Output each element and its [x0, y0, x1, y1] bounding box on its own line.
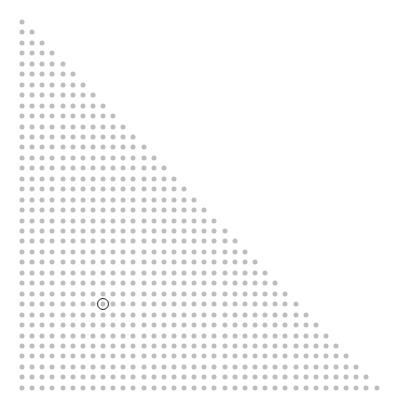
- grid-dot[interactable]: [40, 40, 45, 45]
- grid-dot[interactable]: [50, 72, 55, 77]
- grid-dot[interactable]: [293, 343, 298, 348]
- grid-dot[interactable]: [80, 197, 85, 202]
- grid-dot[interactable]: [40, 291, 45, 296]
- grid-dot[interactable]: [20, 145, 25, 150]
- grid-dot[interactable]: [354, 375, 359, 380]
- grid-dot[interactable]: [182, 302, 187, 307]
- grid-dot[interactable]: [131, 343, 136, 348]
- grid-dot[interactable]: [141, 302, 146, 307]
- grid-dot[interactable]: [222, 260, 227, 265]
- grid-dot[interactable]: [293, 354, 298, 359]
- grid-dot[interactable]: [101, 176, 106, 181]
- grid-dot[interactable]: [182, 312, 187, 317]
- grid-dot[interactable]: [161, 333, 166, 338]
- grid-dot[interactable]: [111, 187, 116, 192]
- grid-dot[interactable]: [161, 343, 166, 348]
- grid-dot[interactable]: [20, 364, 25, 369]
- grid-dot[interactable]: [151, 333, 156, 338]
- grid-dot[interactable]: [202, 291, 207, 296]
- grid-dot[interactable]: [232, 239, 237, 244]
- grid-dot[interactable]: [273, 354, 278, 359]
- grid-dot[interactable]: [192, 302, 197, 307]
- grid-dot[interactable]: [101, 375, 106, 380]
- grid-dot[interactable]: [131, 260, 136, 265]
- grid-dot[interactable]: [70, 145, 75, 150]
- grid-dot[interactable]: [222, 291, 227, 296]
- grid-dot[interactable]: [171, 312, 176, 317]
- grid-dot[interactable]: [273, 375, 278, 380]
- grid-dot[interactable]: [182, 385, 187, 390]
- grid-dot[interactable]: [313, 354, 318, 359]
- grid-dot[interactable]: [121, 333, 126, 338]
- grid-dot[interactable]: [40, 218, 45, 223]
- grid-dot[interactable]: [60, 124, 65, 129]
- grid-dot[interactable]: [60, 103, 65, 108]
- grid-dot[interactable]: [313, 343, 318, 348]
- grid-dot[interactable]: [80, 134, 85, 139]
- grid-dot[interactable]: [30, 208, 35, 213]
- grid-dot[interactable]: [161, 291, 166, 296]
- grid-dot[interactable]: [80, 124, 85, 129]
- grid-dot[interactable]: [354, 364, 359, 369]
- grid-dot[interactable]: [111, 208, 116, 213]
- grid-dot[interactable]: [70, 229, 75, 234]
- grid-dot[interactable]: [80, 93, 85, 98]
- grid-dot[interactable]: [50, 354, 55, 359]
- grid-dot[interactable]: [212, 281, 217, 286]
- grid-dot[interactable]: [252, 281, 257, 286]
- grid-dot[interactable]: [131, 302, 136, 307]
- grid-dot[interactable]: [101, 239, 106, 244]
- grid-dot[interactable]: [171, 176, 176, 181]
- grid-dot[interactable]: [20, 281, 25, 286]
- grid-dot[interactable]: [80, 249, 85, 254]
- grid-dot[interactable]: [111, 302, 116, 307]
- grid-dot[interactable]: [30, 72, 35, 77]
- grid-dot[interactable]: [161, 302, 166, 307]
- grid-dot[interactable]: [111, 364, 116, 369]
- grid-dot[interactable]: [171, 302, 176, 307]
- grid-dot[interactable]: [111, 134, 116, 139]
- grid-dot[interactable]: [20, 249, 25, 254]
- grid-dot[interactable]: [20, 260, 25, 265]
- grid-dot[interactable]: [20, 323, 25, 328]
- grid-dot[interactable]: [161, 239, 166, 244]
- grid-dot[interactable]: [141, 364, 146, 369]
- grid-dot[interactable]: [111, 260, 116, 265]
- grid-dot[interactable]: [80, 260, 85, 265]
- grid-dot[interactable]: [40, 270, 45, 275]
- grid-dot[interactable]: [121, 312, 126, 317]
- grid-dot[interactable]: [40, 364, 45, 369]
- grid-dot[interactable]: [303, 343, 308, 348]
- grid-dot[interactable]: [202, 333, 207, 338]
- grid-dot[interactable]: [50, 343, 55, 348]
- grid-dot[interactable]: [70, 103, 75, 108]
- grid-dot[interactable]: [263, 385, 268, 390]
- grid-dot[interactable]: [40, 124, 45, 129]
- grid-dot[interactable]: [252, 375, 257, 380]
- grid-dot[interactable]: [30, 364, 35, 369]
- grid-dot[interactable]: [30, 114, 35, 119]
- grid-dot[interactable]: [80, 114, 85, 119]
- grid-dot[interactable]: [323, 333, 328, 338]
- grid-dot[interactable]: [30, 166, 35, 171]
- grid-dot[interactable]: [131, 375, 136, 380]
- grid-dot[interactable]: [131, 145, 136, 150]
- grid-dot[interactable]: [252, 333, 257, 338]
- grid-dot[interactable]: [323, 354, 328, 359]
- grid-dot[interactable]: [111, 270, 116, 275]
- grid-dot[interactable]: [20, 312, 25, 317]
- grid-dot[interactable]: [90, 385, 95, 390]
- grid-dot[interactable]: [20, 333, 25, 338]
- grid-dot[interactable]: [90, 260, 95, 265]
- grid-dot[interactable]: [30, 260, 35, 265]
- grid-dot[interactable]: [192, 229, 197, 234]
- grid-dot[interactable]: [30, 51, 35, 56]
- grid-dot[interactable]: [20, 166, 25, 171]
- grid-dot[interactable]: [182, 270, 187, 275]
- grid-dot[interactable]: [60, 312, 65, 317]
- grid-dot[interactable]: [212, 364, 217, 369]
- grid-dot[interactable]: [111, 229, 116, 234]
- grid-dot[interactable]: [30, 93, 35, 98]
- grid-dot[interactable]: [121, 218, 126, 223]
- grid-dot[interactable]: [30, 187, 35, 192]
